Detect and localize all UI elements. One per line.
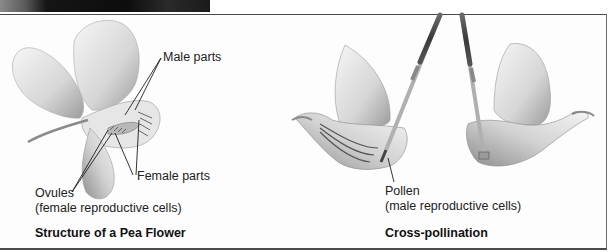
- pollen-note-label: (male reproductive cells): [385, 199, 521, 213]
- ovules-note-label: (female reproductive cells): [35, 201, 182, 215]
- flower-being-pollinated-right: [462, 15, 594, 166]
- cross-pollination-caption: Cross-pollination: [385, 226, 488, 240]
- female-parts-label: Female parts: [137, 169, 210, 183]
- ovules-label: Ovules: [35, 186, 74, 200]
- pea-flower-caption: Structure of a Pea Flower: [35, 226, 186, 240]
- flower-being-pollinated-left: [292, 15, 440, 182]
- pollen-label: Pollen: [385, 184, 420, 198]
- male-parts-label: Male parts: [163, 50, 221, 64]
